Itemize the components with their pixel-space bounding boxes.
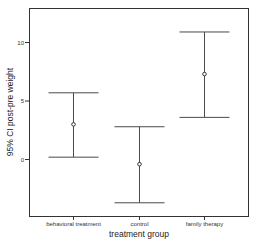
mean-marker: [72, 123, 76, 127]
y-tick-label: 10: [17, 40, 24, 46]
x-tick-label: family therapy: [186, 221, 223, 227]
x-axis-label: treatment group: [109, 229, 169, 239]
x-axis: behavioral treatment control family ther…: [46, 217, 223, 240]
mean-marker: [138, 162, 142, 166]
y-tick-label: 5: [21, 98, 25, 104]
error-bar-family-therapy: [180, 32, 230, 117]
x-tick-label: control: [130, 221, 148, 227]
mean-marker: [203, 72, 207, 76]
y-tick-label: 0: [21, 157, 25, 163]
y-axis: 10 5 0 95% CI post-pre weight: [5, 40, 30, 163]
y-axis-label: 95% CI post-pre weight: [5, 67, 15, 156]
error-bar-chart: 10 5 0 95% CI post-pre weight behavioral…: [0, 0, 256, 244]
error-bars: [49, 32, 230, 203]
error-bar-behavioral-treatment: [49, 93, 99, 157]
error-bar-control: [115, 127, 165, 203]
x-tick-label: behavioral treatment: [46, 221, 101, 227]
